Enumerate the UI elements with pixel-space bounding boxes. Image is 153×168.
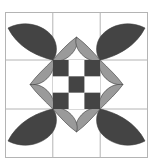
quilt-block <box>5 12 148 158</box>
checkerboard-cell-r2c2 <box>84 93 100 109</box>
checkerboard-cell-r1c1 <box>69 76 85 92</box>
center-checkerboard <box>53 60 100 109</box>
checkerboard-cell-r0c0 <box>53 60 69 76</box>
checkerboard-cell-r2c0 <box>53 93 69 109</box>
image-canvas <box>0 0 153 168</box>
quilt-block-svg <box>5 12 148 158</box>
checkerboard-cell-r0c2 <box>84 60 100 76</box>
